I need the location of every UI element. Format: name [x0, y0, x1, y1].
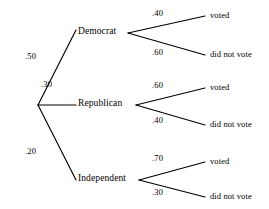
- probability-independent-did-not-vote: .30: [152, 188, 163, 197]
- probability-republican-did-not-vote: .40: [152, 116, 163, 125]
- probability-democrat-voted: .40: [152, 9, 163, 18]
- edge-democrat-voted: [128, 16, 205, 33]
- edge-independent-did-not-vote: [139, 180, 205, 197]
- leaf-independent-voted: voted: [210, 157, 229, 166]
- edge-root-independent: [38, 105, 76, 180]
- node-democrat: Democrat: [78, 27, 116, 37]
- edge-republican-did-not-vote: [136, 105, 205, 125]
- probability-republican: .30: [41, 80, 52, 89]
- node-republican: Republican: [78, 99, 122, 109]
- probability-tree-diagram: .50 .30 .20 Democrat Republican Independ…: [0, 0, 269, 209]
- probability-democrat: .50: [25, 52, 36, 61]
- leaf-republican-did-not-vote: did not vote: [210, 120, 252, 129]
- node-independent: Independent: [78, 174, 126, 184]
- tree-edges: [0, 0, 269, 209]
- edge-republican-voted: [136, 88, 205, 105]
- leaf-republican-voted: voted: [210, 83, 229, 92]
- leaf-democrat-voted: voted: [210, 11, 229, 20]
- leaf-independent-did-not-vote: did not vote: [210, 192, 252, 201]
- probability-independent-voted: .70: [152, 154, 163, 163]
- edge-democrat-did-not-vote: [128, 33, 205, 55]
- probability-republican-voted: .60: [152, 81, 163, 90]
- probability-independent: .20: [25, 147, 36, 156]
- probability-democrat-did-not-vote: .60: [152, 48, 163, 57]
- leaf-democrat-did-not-vote: did not vote: [210, 50, 252, 59]
- edge-root-democrat: [38, 30, 76, 105]
- edge-independent-voted: [139, 162, 205, 180]
